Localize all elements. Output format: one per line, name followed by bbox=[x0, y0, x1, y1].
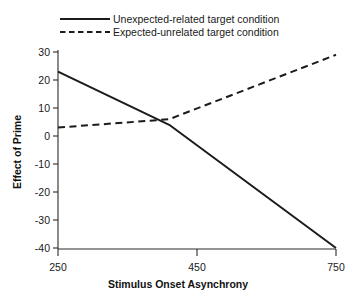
legend-label-unexpected-related: Unexpected-related target condition bbox=[113, 14, 279, 25]
y-axis-title: Effect of Prime bbox=[12, 115, 23, 189]
y-tick-label-20: 20 bbox=[28, 75, 50, 86]
y-tick-label-30: 30 bbox=[28, 47, 50, 58]
y-tick-label-0: 0 bbox=[28, 131, 50, 142]
plot-canvas bbox=[0, 0, 356, 301]
y-tick-label-neg40: -40 bbox=[24, 243, 50, 254]
y-tick-label-neg20: -20 bbox=[24, 187, 50, 198]
series-line-unexpected-related bbox=[58, 72, 336, 248]
x-axis-title: Stimulus Onset Asynchrony bbox=[108, 279, 248, 290]
y-tick-marks bbox=[53, 52, 58, 248]
chart-figure: 30 20 10 0 -10 -20 -30 -40 250 450 750 S… bbox=[0, 0, 356, 301]
x-tick-label-250: 250 bbox=[49, 262, 67, 273]
x-tick-label-450: 450 bbox=[188, 262, 206, 273]
y-tick-label-neg30: -30 bbox=[24, 215, 50, 226]
legend-label-expected-unrelated: Expected-unrelated target condition bbox=[113, 27, 279, 38]
x-tick-label-750: 750 bbox=[327, 262, 345, 273]
x-tick-marks bbox=[58, 249, 336, 256]
y-tick-label-10: 10 bbox=[28, 103, 50, 114]
y-tick-label-neg10: -10 bbox=[24, 159, 50, 170]
